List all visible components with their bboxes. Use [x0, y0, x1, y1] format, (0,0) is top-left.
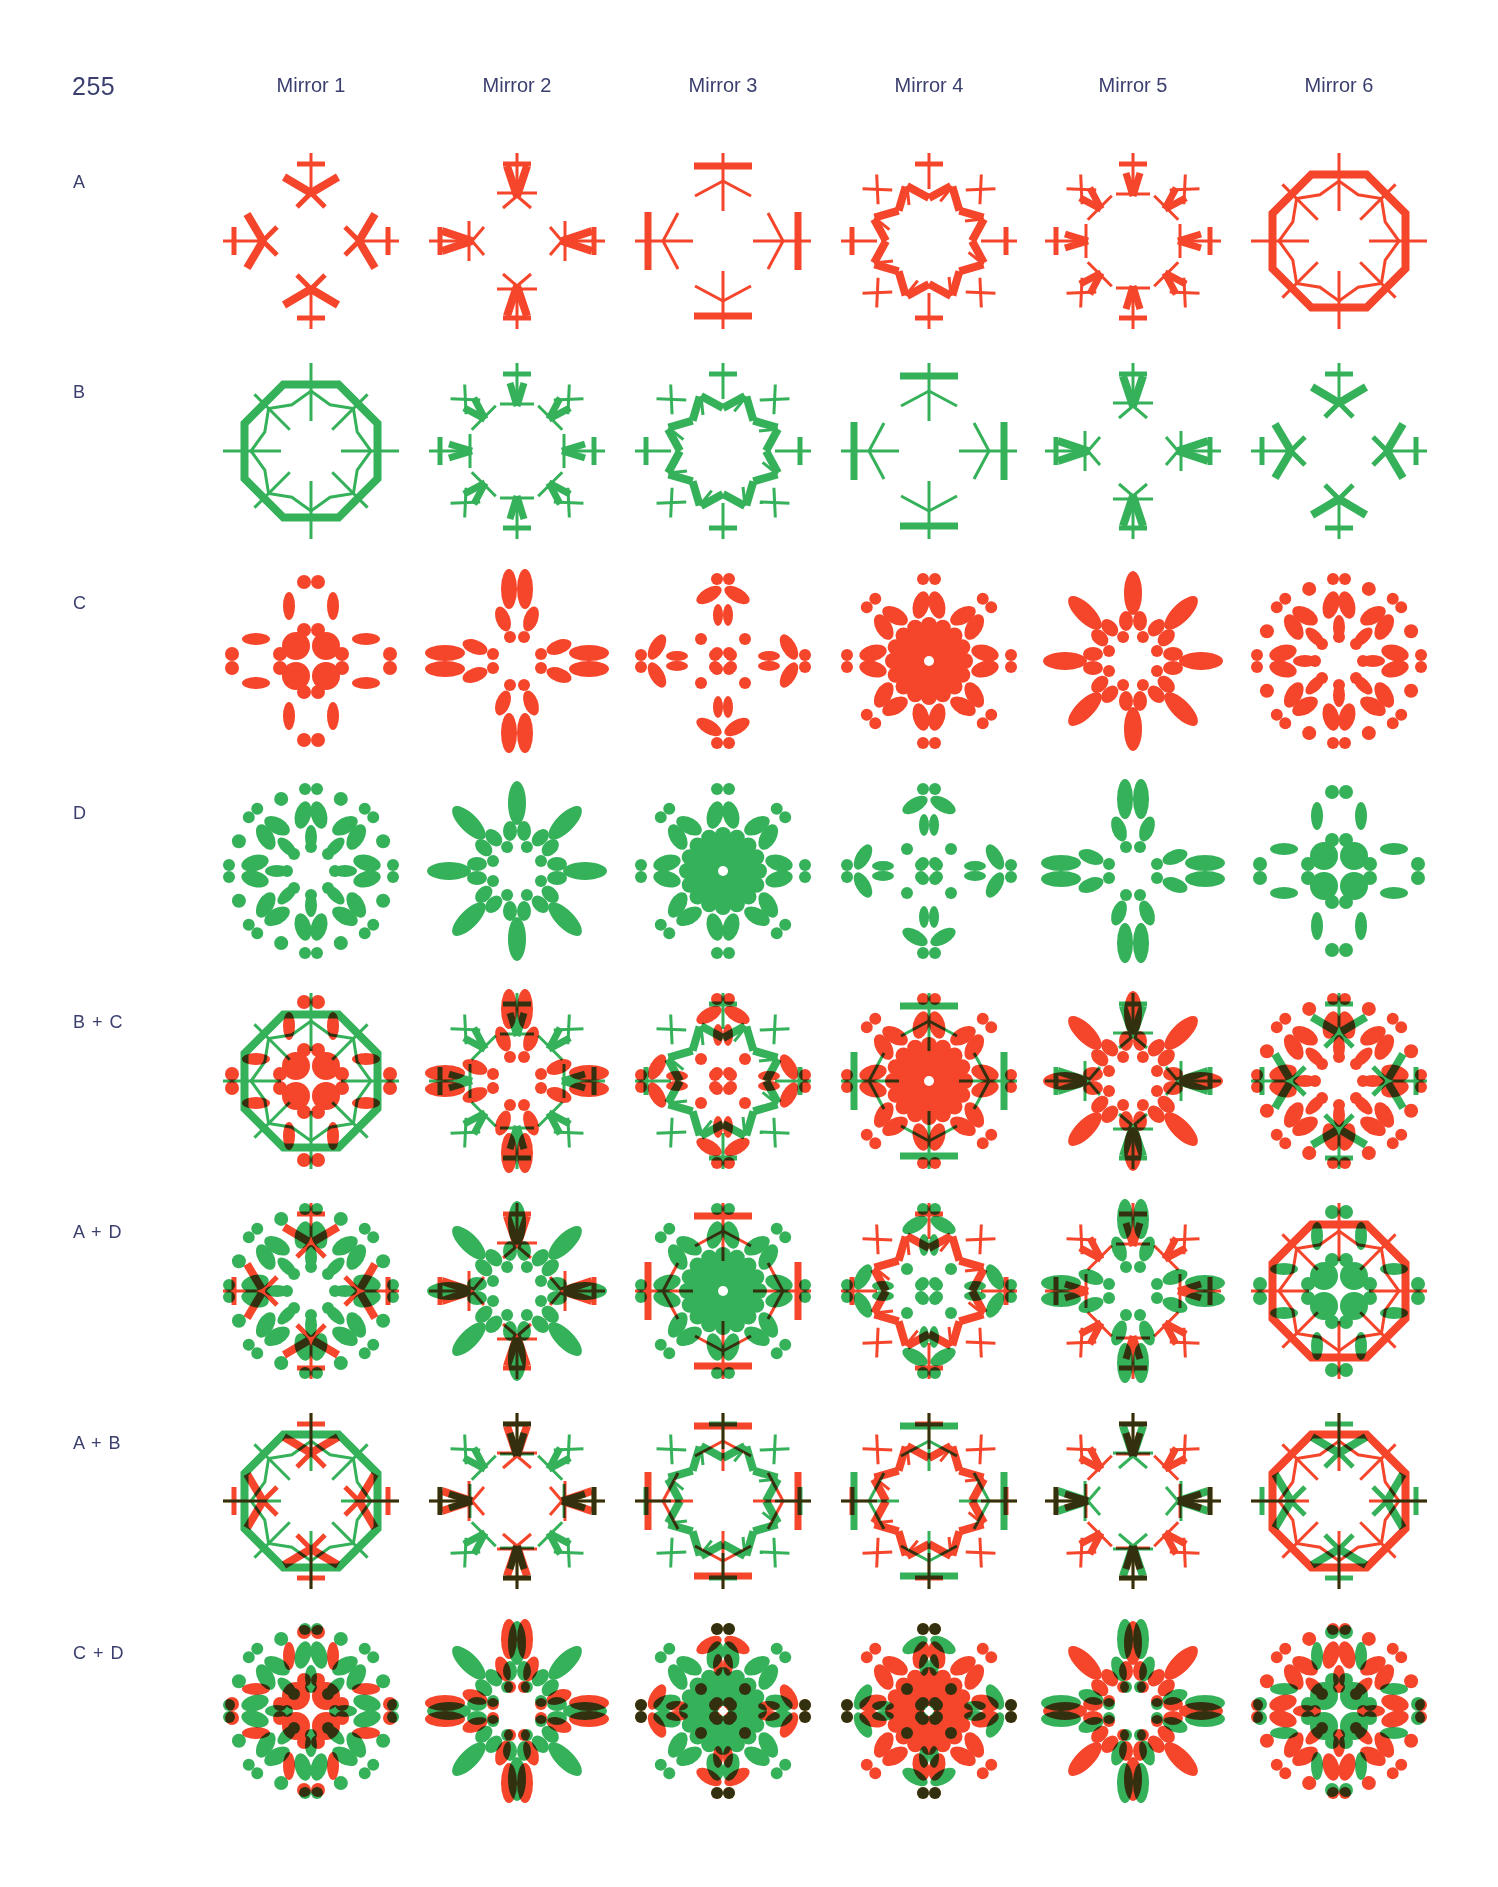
motif-a-plus-b-mirror-3 — [628, 1406, 818, 1596]
motif-c-mirror-2 — [422, 566, 612, 756]
motif-a-plus-d-mirror-2 — [422, 1196, 612, 1386]
motif-b-mirror-6 — [1244, 356, 1434, 546]
motif-d-mirror-2 — [422, 776, 612, 966]
motif-a-mirror-6 — [1244, 146, 1434, 336]
motif-b-plus-c-mirror-3 — [628, 986, 818, 1176]
motif-b-mirror-3 — [628, 356, 818, 546]
motif-c-plus-d-mirror-1 — [216, 1616, 406, 1806]
motif-b-mirror-2 — [422, 356, 612, 546]
row-label: D — [73, 803, 87, 824]
motif-a-mirror-2 — [422, 146, 612, 336]
motif-c-mirror-1 — [216, 566, 406, 756]
motif-c-mirror-3 — [628, 566, 818, 756]
row-label: C — [73, 593, 87, 614]
row-label: C + D — [73, 1643, 125, 1664]
motif-a-plus-b-mirror-5 — [1038, 1406, 1228, 1596]
motif-b-plus-c-mirror-4 — [834, 986, 1024, 1176]
motif-a-plus-d-mirror-5 — [1038, 1196, 1228, 1386]
motif-b-mirror-5 — [1038, 356, 1228, 546]
motif-b-plus-c-mirror-5 — [1038, 986, 1228, 1176]
motif-a-plus-d-mirror-1 — [216, 1196, 406, 1386]
motif-b-mirror-4 — [834, 356, 1024, 546]
motif-a-mirror-4 — [834, 146, 1024, 336]
column-header-mirror-5: Mirror 5 — [1033, 74, 1233, 97]
motif-a-plus-d-mirror-4 — [834, 1196, 1024, 1386]
motif-d-mirror-4 — [834, 776, 1024, 966]
motif-c-plus-d-mirror-6 — [1244, 1616, 1434, 1806]
motif-b-mirror-1 — [216, 356, 406, 546]
motif-a-plus-b-mirror-6 — [1244, 1406, 1434, 1596]
motif-c-plus-d-mirror-5 — [1038, 1616, 1228, 1806]
motif-a-plus-d-mirror-6 — [1244, 1196, 1434, 1386]
column-header-mirror-6: Mirror 6 — [1239, 74, 1439, 97]
motif-a-plus-b-mirror-1 — [216, 1406, 406, 1596]
page-number: 255 — [72, 72, 115, 101]
motif-a-mirror-5 — [1038, 146, 1228, 336]
motif-a-plus-b-mirror-2 — [422, 1406, 612, 1596]
motif-d-mirror-5 — [1038, 776, 1228, 966]
motif-c-mirror-4 — [834, 566, 1024, 756]
row-label: A + B — [73, 1433, 122, 1454]
motif-a-mirror-1 — [216, 146, 406, 336]
column-header-mirror-4: Mirror 4 — [829, 74, 1029, 97]
motif-d-mirror-3 — [628, 776, 818, 966]
motif-c-plus-d-mirror-2 — [422, 1616, 612, 1806]
motif-a-mirror-3 — [628, 146, 818, 336]
motif-c-mirror-5 — [1038, 566, 1228, 756]
row-label: A — [73, 172, 86, 193]
motif-c-mirror-6 — [1244, 566, 1434, 756]
motif-d-mirror-1 — [216, 776, 406, 966]
motif-c-plus-d-mirror-4 — [834, 1616, 1024, 1806]
motif-b-plus-c-mirror-2 — [422, 986, 612, 1176]
motif-a-plus-d-mirror-3 — [628, 1196, 818, 1386]
column-header-mirror-2: Mirror 2 — [417, 74, 617, 97]
motif-b-plus-c-mirror-1 — [216, 986, 406, 1176]
column-header-mirror-1: Mirror 1 — [211, 74, 411, 97]
motif-c-plus-d-mirror-3 — [628, 1616, 818, 1806]
row-label: A + D — [73, 1222, 123, 1243]
column-header-mirror-3: Mirror 3 — [623, 74, 823, 97]
row-label: B + C — [73, 1012, 124, 1033]
row-label: B — [73, 382, 86, 403]
motif-b-plus-c-mirror-6 — [1244, 986, 1434, 1176]
motif-a-plus-b-mirror-4 — [834, 1406, 1024, 1596]
motif-d-mirror-6 — [1244, 776, 1434, 966]
